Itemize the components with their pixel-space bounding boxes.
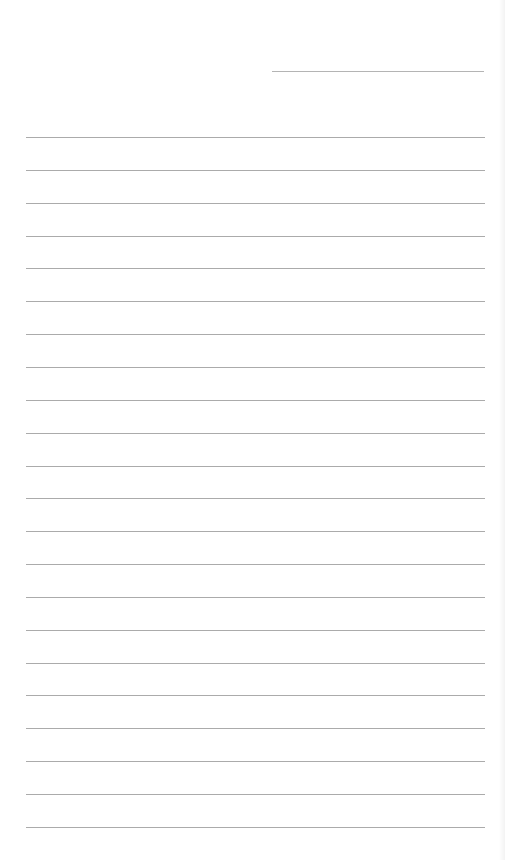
rule-line [26, 564, 485, 565]
rule-line [26, 236, 485, 237]
rule-line [26, 761, 485, 762]
rule-line [26, 367, 485, 368]
rule-line [26, 268, 485, 269]
rule-line [26, 301, 485, 302]
rule-line [26, 498, 485, 499]
rule-line [26, 433, 485, 434]
rule-line [26, 663, 485, 664]
lined-paper-page [0, 0, 505, 860]
rule-line [26, 794, 485, 795]
rule-line [26, 203, 485, 204]
rule-line [26, 170, 485, 171]
rule-line [26, 137, 485, 138]
rule-line [26, 466, 485, 467]
rule-line [26, 531, 485, 532]
rule-line [26, 334, 485, 335]
rule-line [26, 630, 485, 631]
rule-line [26, 695, 485, 696]
rule-line [26, 728, 485, 729]
rule-line [26, 597, 485, 598]
ruled-lines [26, 0, 485, 860]
page-edge-shadow [499, 0, 505, 860]
rule-line [26, 827, 485, 828]
rule-line [26, 400, 485, 401]
